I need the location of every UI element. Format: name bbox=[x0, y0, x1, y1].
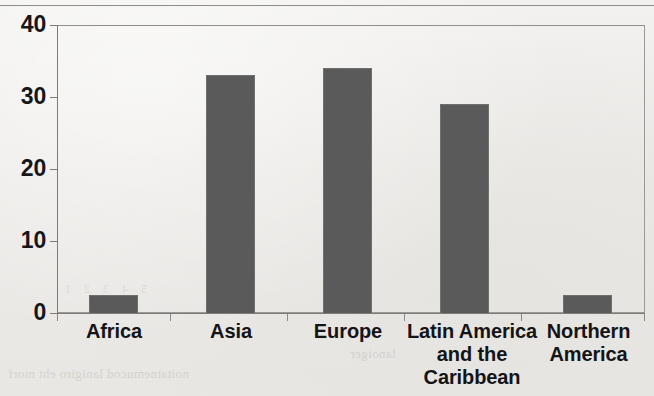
x-axis-tick-1 bbox=[170, 314, 171, 321]
y-axis-label-30: 30 bbox=[0, 85, 46, 108]
x-axis-label-latin-america-and-the-caribbean: Latin America and the Caribbean bbox=[404, 320, 540, 389]
x-axis-label-latin-america-line-2: and the bbox=[404, 343, 540, 366]
x-axis-label-asia-line-1: Asia bbox=[175, 320, 287, 343]
x-axis-tick-5 bbox=[644, 314, 645, 321]
y-axis-label-0: 0 bbox=[0, 301, 46, 324]
bar-asia[interactable] bbox=[206, 75, 255, 313]
y-axis-tick-40 bbox=[50, 25, 58, 26]
x-axis-label-europe-line-1: Europe bbox=[292, 320, 404, 343]
y-axis-label-10: 10 bbox=[0, 229, 46, 252]
x-axis-label-europe: Europe bbox=[292, 320, 404, 343]
bar-northern-america[interactable] bbox=[563, 295, 612, 313]
y-axis-tick-10 bbox=[50, 241, 58, 242]
x-axis-tick-2 bbox=[287, 314, 288, 321]
x-axis-label-northern-america-line-1: Northern bbox=[536, 320, 641, 343]
x-axis-label-latin-america-line-1: Latin America bbox=[404, 320, 540, 343]
y-axis-tick-30 bbox=[50, 97, 58, 98]
x-axis-label-africa-line-1: Africa bbox=[58, 320, 170, 343]
y-axis-tick-20 bbox=[50, 169, 58, 170]
x-axis-line bbox=[57, 313, 645, 314]
bar-latin-america-and-the-caribbean[interactable] bbox=[440, 104, 489, 313]
y-axis-label-20: 20 bbox=[0, 157, 46, 180]
x-axis-label-asia: Asia bbox=[175, 320, 287, 343]
x-axis-label-latin-america-line-3: Caribbean bbox=[404, 366, 540, 389]
bar-chart: 40 30 20 10 0 Africa Asia Europe Latin A… bbox=[0, 0, 654, 396]
y-axis-label-40: 40 bbox=[0, 13, 46, 36]
x-axis-label-africa: Africa bbox=[58, 320, 170, 343]
x-axis-label-northern-america-line-2: America bbox=[536, 343, 641, 366]
bar-europe[interactable] bbox=[323, 68, 372, 313]
bar-africa[interactable] bbox=[89, 295, 138, 313]
x-axis-label-northern-america: Northern America bbox=[536, 320, 641, 366]
